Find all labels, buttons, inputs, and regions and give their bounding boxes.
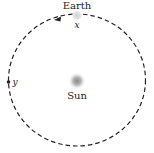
sun-icon <box>68 72 86 90</box>
earth-icon <box>73 11 82 20</box>
point-y-marker-icon <box>7 80 11 84</box>
earth-label: Earth <box>63 0 92 11</box>
point-x-label: x <box>74 20 79 30</box>
orbit-diagram: Earth x y Sun <box>0 0 154 153</box>
point-y-label: y <box>12 77 19 87</box>
sun-label: Sun <box>67 90 87 101</box>
